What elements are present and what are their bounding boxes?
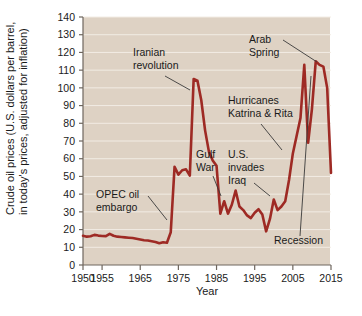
annotation-opec-oil-embargo-line1: OPEC oil [96, 188, 139, 200]
x-tick-label: 1995 [243, 272, 267, 284]
x-tick-label: 1965 [129, 272, 153, 284]
annotation-gulf-war-line1: Gulf [196, 148, 215, 160]
annotation-hurricanes-line2: Katrina & Rita [228, 107, 293, 119]
annotation-iranian-revolution-line1: Iranian [133, 46, 165, 58]
y-tick-label: 10 [63, 241, 75, 253]
annotation-opec-oil-embargo-line2: embargo [96, 201, 138, 213]
y-tick-label: 0 [69, 259, 75, 271]
annotation-arab-spring-line2: Spring [249, 46, 280, 58]
y-tick-label: 130 [57, 28, 75, 40]
x-tick-label: 1975 [167, 272, 191, 284]
annotation-iranian-revolution-line2: revolution [133, 59, 179, 71]
y-tick-label: 30 [63, 206, 75, 218]
crude-oil-price-chart: 0102030405060708090100110120130140 19501… [0, 0, 362, 316]
annotation-hurricanes-line1: Hurricanes [228, 94, 279, 106]
y-tick-label: 90 [63, 99, 75, 111]
x-tick-label: 1955 [90, 272, 114, 284]
x-tick-label: 2015 [319, 272, 343, 284]
y-tick-label: 110 [58, 64, 75, 76]
y-tick-label: 40 [63, 188, 75, 200]
annotation-gulf-war-line2: War [196, 161, 215, 173]
y-tick-label: 140 [57, 11, 75, 23]
y-tick-label: 100 [57, 82, 75, 94]
annotation-recession-line1: Recession [274, 234, 323, 246]
x-axis-title: Year [196, 285, 219, 297]
annotation-us-invades-iraq-line3: Iraq [228, 174, 246, 186]
y-tick-label: 70 [63, 135, 75, 147]
y-tick-label: 50 [63, 170, 75, 182]
y-tick-label: 80 [63, 117, 75, 129]
x-tick-label: 1985 [205, 272, 229, 284]
y-tick-label: 20 [63, 223, 75, 235]
y-axis-title-line1: Crude oil prices (U.S. dollars per barre… [4, 22, 16, 215]
annotation-arab-spring-line1: Arab [249, 33, 271, 45]
annotation-us-invades-iraq-line2: invades [228, 161, 264, 173]
x-tick-label: 2005 [281, 272, 305, 284]
annotation-us-invades-iraq-line1: U.S. [228, 148, 248, 160]
y-axis-title-line2: in today's prices, adjusted for inflatio… [17, 28, 29, 215]
y-tick-label: 60 [63, 152, 75, 164]
y-tick-label: 120 [57, 46, 75, 58]
